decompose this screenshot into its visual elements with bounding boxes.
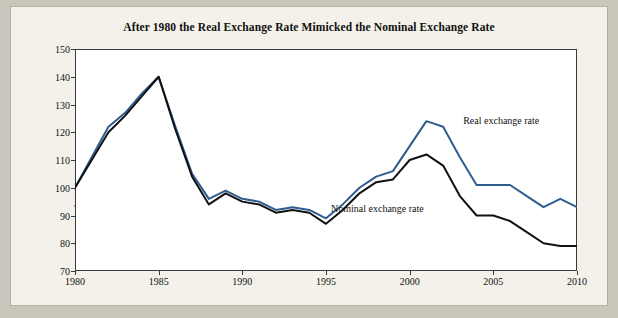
x-tick-label: 1995 xyxy=(316,276,336,287)
y-tick-label: 110 xyxy=(55,155,70,166)
y-tick-label: 100 xyxy=(55,182,70,193)
x-tick-label: 2005 xyxy=(483,276,503,287)
annotation-nominal-exchange-rate: Nominal exchange rate xyxy=(331,203,424,214)
chart-title: After 1980 the Real Exchange Rate Mimick… xyxy=(11,21,607,33)
x-tick-label: 1980 xyxy=(65,276,85,287)
annotation-real-exchange-rate: Real exchange rate xyxy=(463,115,539,126)
x-tick-mark xyxy=(75,271,76,275)
x-tick-label: 2010 xyxy=(567,276,587,287)
x-tick-mark xyxy=(159,271,160,275)
y-tick-label: 130 xyxy=(55,99,70,110)
x-tick-label: 2000 xyxy=(400,276,420,287)
x-tick-mark xyxy=(410,271,411,275)
x-tick-mark xyxy=(326,271,327,275)
y-tick-label: 70 xyxy=(60,266,70,277)
y-tick-label: 80 xyxy=(60,238,70,249)
series-lines xyxy=(75,49,577,271)
x-tick-label: 1985 xyxy=(149,276,169,287)
x-tick-mark xyxy=(242,271,243,275)
x-tick-mark xyxy=(577,271,578,275)
x-tick-mark xyxy=(493,271,494,275)
series-line xyxy=(75,77,577,219)
figure-panel: After 1980 the Real Exchange Rate Mimick… xyxy=(10,6,608,306)
y-tick-label: 120 xyxy=(55,127,70,138)
y-tick-label: 90 xyxy=(60,210,70,221)
plot-area-wrapper: Percent of 1980 value 708090100110120130… xyxy=(75,49,577,271)
series-line xyxy=(75,77,577,246)
y-tick-label: 150 xyxy=(55,44,70,55)
y-tick-label: 140 xyxy=(55,71,70,82)
x-tick-label: 1990 xyxy=(232,276,252,287)
